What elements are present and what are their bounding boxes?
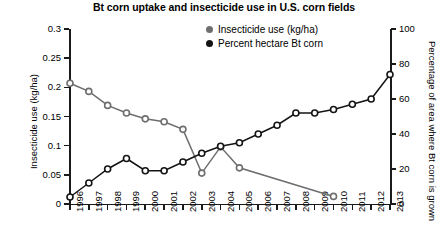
data-point-marker	[349, 101, 355, 107]
data-point-marker	[180, 159, 186, 165]
data-point-marker	[312, 110, 318, 116]
series-plot-area	[0, 0, 448, 249]
data-point-marker	[86, 88, 92, 94]
data-point-marker	[331, 107, 337, 113]
data-point-marker	[236, 165, 242, 171]
series-line	[70, 83, 334, 196]
data-point-marker	[105, 166, 111, 172]
data-point-marker	[105, 102, 111, 108]
data-point-marker	[142, 116, 148, 122]
data-point-marker	[236, 140, 242, 146]
series-line	[70, 75, 390, 198]
data-point-marker	[67, 80, 73, 86]
data-point-marker	[161, 168, 167, 174]
series-bt-corn	[67, 72, 393, 201]
data-point-marker	[255, 131, 261, 137]
data-point-marker	[331, 193, 337, 199]
data-point-marker	[293, 110, 299, 116]
data-point-marker	[180, 126, 186, 132]
data-point-marker	[161, 119, 167, 125]
data-point-marker	[199, 150, 205, 156]
data-point-marker	[368, 96, 374, 102]
data-point-marker	[199, 170, 205, 176]
data-point-marker	[387, 72, 393, 78]
data-point-marker	[123, 156, 129, 162]
chart-container: Bt corn uptake and insecticide use in U.…	[0, 0, 448, 249]
data-point-marker	[86, 180, 92, 186]
series-insecticide	[67, 80, 337, 199]
data-point-marker	[142, 168, 148, 174]
data-point-marker	[67, 194, 73, 200]
data-point-marker	[123, 110, 129, 116]
data-point-marker	[218, 143, 224, 149]
data-point-marker	[274, 122, 280, 128]
